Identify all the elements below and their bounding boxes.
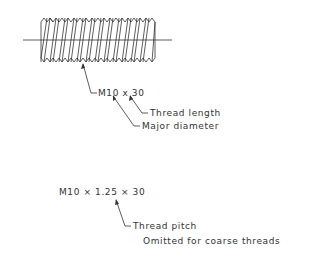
designation-callout: M10 x 30: [98, 88, 145, 98]
thread-pitch-label: Thread pitch: [133, 221, 197, 231]
pitch-designation-callout: M10 × 1.25 × 30: [59, 187, 145, 197]
thread-diagram: M10 x 30 Thread length Major diameter M1…: [0, 0, 333, 265]
thread-length-label: Thread length: [150, 108, 221, 118]
leader-length: [130, 96, 148, 113]
major-diameter-label: Major diameter: [142, 121, 219, 131]
leader-diameter: [113, 96, 140, 126]
coarse-thread-note: Omitted for coarse threads: [143, 236, 280, 246]
leader-designation: [83, 64, 97, 93]
